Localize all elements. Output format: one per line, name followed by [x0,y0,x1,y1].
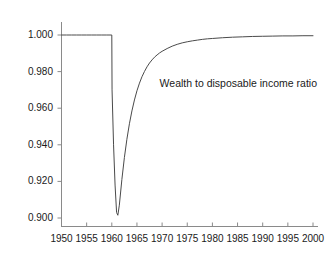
x-axis-ticks [62,223,314,227]
y-axis-tick-label: 0.940 [13,139,53,150]
y-axis-ticks [58,35,62,218]
data-series-line [62,35,314,215]
y-axis-tick-label: 0.960 [13,102,53,113]
y-axis-tick-label: 1.000 [13,29,53,40]
series-annotation-label: Wealth to disposable income ratio [160,77,317,89]
y-axis-tick-label: 0.980 [13,66,53,77]
chart-figure: 0.9000.9200.9400.9600.9801.000 195019551… [0,0,330,258]
y-axis-tick-label: 0.920 [13,175,53,186]
y-axis-tick-label: 0.900 [13,212,53,223]
x-axis-tick-label: 2000 [297,233,329,244]
